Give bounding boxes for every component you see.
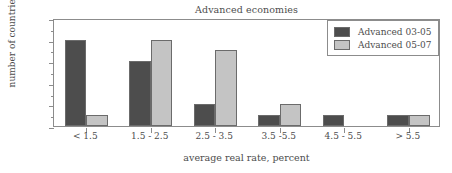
bar — [65, 40, 86, 126]
bar-chart: Advanced economies number of countries 0… — [0, 0, 452, 173]
bar-group — [129, 20, 172, 126]
x-tick-label: 2.5 - 3.5 — [182, 131, 247, 141]
bar — [280, 104, 301, 126]
legend-item: Advanced 03-05 — [334, 25, 433, 38]
bar-group — [65, 20, 108, 126]
y-tick-mark — [49, 42, 54, 43]
legend-item: Advanced 05-07 — [334, 38, 433, 51]
y-tick-mark-minor — [51, 31, 54, 32]
bar — [129, 61, 150, 126]
x-tick-label: < 1.5 — [53, 131, 118, 141]
bar-group — [194, 20, 237, 126]
x-axis-title: average real rate, percent — [53, 152, 440, 163]
legend-swatch-icon — [334, 40, 350, 50]
chart-title: Advanced economies — [53, 4, 440, 15]
y-tick-mark-minor — [51, 96, 54, 97]
x-tick-label: 1.5 - 2.5 — [118, 131, 183, 141]
bar — [215, 50, 236, 126]
bar — [86, 115, 107, 126]
y-tick-mark — [49, 85, 54, 86]
legend-item-label: Advanced 03-05 — [358, 27, 431, 37]
bar — [258, 115, 279, 126]
x-tick-label: > 5.5 — [376, 131, 441, 141]
bar — [323, 115, 344, 126]
legend-item-label: Advanced 05-07 — [358, 40, 431, 50]
legend: Advanced 03-05 Advanced 05-07 — [327, 20, 439, 56]
y-tick-mark-minor — [51, 74, 54, 75]
y-tick-mark — [49, 20, 54, 21]
y-tick-mark-minor — [51, 117, 54, 118]
y-tick-mark — [49, 63, 54, 64]
y-tick-mark — [49, 128, 54, 129]
y-tick-mark — [49, 106, 54, 107]
bar — [409, 115, 430, 126]
x-tick-label: 3.5 -5.5 — [247, 131, 312, 141]
bar-group — [258, 20, 301, 126]
y-tick-mark-minor — [51, 52, 54, 53]
legend-swatch-icon — [334, 27, 350, 37]
bar — [194, 104, 215, 126]
bar — [151, 40, 172, 126]
bar — [387, 115, 408, 126]
y-axis-title: number of countries — [7, 0, 17, 101]
x-tick-label: 4.5 - 5.5 — [311, 131, 376, 141]
